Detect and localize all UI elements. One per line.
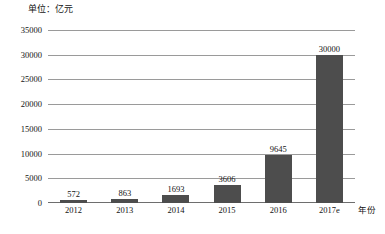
bar-chart: 单位：亿元 35000 30000 25000 20000 15000 1000… bbox=[0, 0, 385, 234]
y-axis-tick-label: 35000 bbox=[21, 26, 42, 35]
bar-slot: 572 bbox=[48, 30, 99, 203]
bar-value-label: 1693 bbox=[167, 184, 184, 194]
bar-slot: 3606 bbox=[202, 30, 253, 203]
bar: 9645 bbox=[265, 155, 292, 203]
y-axis-tick-label: 30000 bbox=[21, 50, 42, 59]
unit-caption: 单位：亿元 bbox=[28, 4, 73, 15]
bar: 572 bbox=[60, 200, 87, 203]
bar: 30000 bbox=[316, 55, 343, 203]
y-axis-tick-label: 10000 bbox=[21, 149, 42, 158]
y-axis-tick-label: 20000 bbox=[21, 100, 42, 109]
bar-value-label: 572 bbox=[67, 189, 80, 199]
bar-value-label: 30000 bbox=[319, 44, 340, 54]
y-axis-tick-label: 25000 bbox=[21, 75, 42, 84]
bar-slot: 1693 bbox=[150, 30, 201, 203]
bar-value-label: 863 bbox=[118, 188, 131, 198]
bar-slot: 30000 bbox=[304, 30, 355, 203]
y-axis-tick-label: 15000 bbox=[21, 124, 42, 133]
bar-slot: 863 bbox=[99, 30, 150, 203]
x-axis-tick-label: 2016 bbox=[253, 205, 304, 216]
bar: 1693 bbox=[162, 195, 189, 203]
y-axis-tick-labels: 35000 30000 25000 20000 15000 10000 5000… bbox=[0, 30, 46, 203]
x-axis-tick-labels: 2012 2013 2014 2015 2016 2017e bbox=[48, 205, 355, 216]
bars-layer: 572 863 1693 3606 9645 bbox=[48, 30, 355, 203]
bar-value-label: 3606 bbox=[219, 174, 236, 184]
x-axis-title: 年份 bbox=[358, 205, 376, 216]
bar-value-label: 9645 bbox=[270, 144, 287, 154]
x-axis-tick-label: 2017e bbox=[304, 205, 355, 216]
bar-slot: 9645 bbox=[253, 30, 304, 203]
plot-area: 572 863 1693 3606 9645 bbox=[48, 30, 355, 203]
y-axis-tick-label: 5000 bbox=[25, 174, 42, 183]
x-axis-tick-label: 2013 bbox=[99, 205, 150, 216]
y-axis-tick-label: 0 bbox=[38, 199, 42, 208]
bar: 3606 bbox=[214, 185, 241, 203]
x-axis-tick-label: 2012 bbox=[48, 205, 99, 216]
x-axis-tick-label: 2014 bbox=[150, 205, 201, 216]
bar: 863 bbox=[111, 199, 138, 203]
x-axis-tick-label: 2015 bbox=[202, 205, 253, 216]
